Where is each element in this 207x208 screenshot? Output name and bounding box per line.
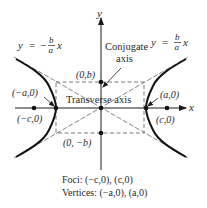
label-bottom: (0, −b) [63,137,92,149]
label-left-focus: (−c,0) [17,113,43,125]
left-vertex-dot [54,106,59,111]
svg-text:y: y [150,36,156,48]
right-focus-dot [165,106,170,111]
svg-text:y: y [17,39,23,51]
point-bottom [99,131,104,136]
point-origin [99,106,104,111]
svg-text:−: − [40,39,46,51]
svg-text:=: = [29,39,35,51]
hyperbola-diagram: y x y = − b a x y = b a x Conjugate axis… [0,0,207,208]
label-right-vertex: (a,0) [160,89,180,101]
conjugate-axis-label-line2: axis [116,53,133,64]
point-top [99,80,104,85]
asymptote-left-equation: y = − b a x [17,35,62,55]
svg-text:x: x [56,39,62,51]
label-top: (0,b) [76,69,96,81]
x-axis-label: x [188,101,194,113]
svg-text:a: a [49,45,54,55]
left-vertex-leader [44,97,54,106]
y-axis-label: y [96,7,102,19]
label-right-focus: (c,0) [156,114,175,126]
svg-text:x: x [182,36,188,48]
svg-text:a: a [175,42,180,52]
conjugate-axis-label-line1: Conjugate [105,41,148,52]
caption-foci: Foci: (−c,0), (c,0) [62,174,133,186]
conjugate-leader [103,68,121,87]
right-vertex-leader [148,98,158,106]
asymptote-right-equation: y = b a x [150,32,188,52]
transverse-axis-label: Transverse axis [66,94,131,105]
left-focus-dot [32,106,37,111]
svg-text:=: = [162,36,168,48]
svg-text:b: b [49,35,54,45]
svg-text:b: b [175,32,180,42]
label-left-vertex: (−a,0) [12,87,39,99]
caption-vertices: Vertices: (−a,0), (a,0) [62,187,147,199]
right-vertex-dot [144,106,149,111]
